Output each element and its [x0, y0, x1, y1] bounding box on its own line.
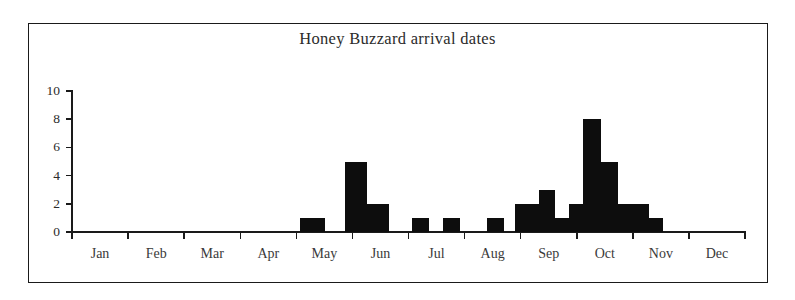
x-tick-label-feb: Feb	[126, 246, 186, 262]
x-tick-mark	[352, 233, 354, 239]
bar	[583, 119, 601, 232]
bar	[300, 218, 325, 232]
y-tick-label: 8	[30, 112, 60, 126]
bar	[649, 218, 663, 232]
bar	[618, 204, 635, 232]
x-tick-label-dec: Dec	[687, 246, 747, 262]
x-tick-mark	[127, 233, 129, 239]
bar	[487, 218, 504, 232]
bar	[635, 204, 649, 232]
x-tick-mark	[296, 233, 298, 239]
chart-figure: Honey Buzzard arrival dates 0246810 JanF…	[0, 0, 795, 300]
bars-layer	[72, 91, 745, 232]
y-tick-label-wrap: 0	[28, 225, 60, 237]
x-tick-mark	[240, 233, 242, 239]
bar	[515, 204, 539, 232]
x-tick-label-jan: Jan	[70, 246, 130, 262]
x-tick-label-jun: Jun	[350, 246, 410, 262]
y-tick-label: 10	[30, 84, 60, 98]
x-tick-mark	[576, 233, 578, 239]
bar	[367, 204, 389, 232]
y-tick-label: 4	[30, 169, 60, 183]
x-tick-label-apr: Apr	[238, 246, 298, 262]
y-tick-label-wrap: 8	[28, 112, 60, 124]
x-tick-mark	[744, 233, 746, 239]
bar	[443, 218, 460, 232]
x-tick-label-jul: Jul	[407, 246, 467, 262]
chart-title: Honey Buzzard arrival dates	[0, 29, 795, 49]
x-tick-label-sep: Sep	[519, 246, 579, 262]
x-tick-label-aug: Aug	[463, 246, 523, 262]
bar	[601, 162, 618, 233]
y-tick-label: 2	[30, 197, 60, 211]
y-tick-label-wrap: 6	[28, 140, 60, 152]
bar	[555, 218, 569, 232]
y-tick-label-wrap: 2	[28, 197, 60, 209]
y-tick-label: 0	[30, 225, 60, 239]
x-tick-mark	[183, 233, 185, 239]
x-tick-label-oct: Oct	[575, 246, 635, 262]
y-tick-label-wrap: 4	[28, 169, 60, 181]
bar	[412, 218, 429, 232]
x-tick-mark	[632, 233, 634, 239]
bar	[345, 162, 367, 233]
x-tick-mark	[408, 233, 410, 239]
x-tick-mark	[520, 233, 522, 239]
bar	[569, 204, 583, 232]
bar	[539, 190, 555, 232]
x-tick-mark	[464, 233, 466, 239]
x-tick-mark	[688, 233, 690, 239]
x-tick-label-nov: Nov	[631, 246, 691, 262]
y-tick-label: 6	[30, 140, 60, 154]
x-tick-label-mar: Mar	[182, 246, 242, 262]
x-tick-mark	[71, 233, 73, 239]
y-tick-label-wrap: 10	[28, 84, 60, 96]
x-tick-label-may: May	[294, 246, 354, 262]
plot-area	[72, 91, 745, 232]
